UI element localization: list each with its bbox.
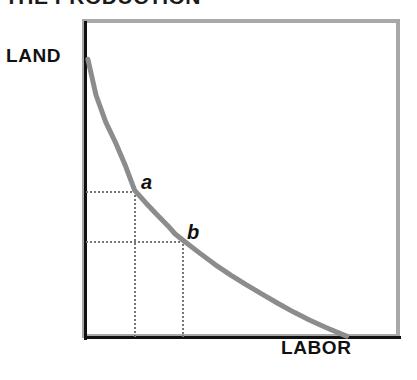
x-axis-title: LABOR xyxy=(281,337,352,359)
point-label-b: b xyxy=(187,222,199,242)
isoquant-curve xyxy=(0,0,417,380)
point-label-a: a xyxy=(141,172,152,192)
y-axis-title: LAND xyxy=(6,45,61,67)
production-isoquant-figure: THE PRODUCTION a b LAND LABOR xyxy=(0,0,417,380)
